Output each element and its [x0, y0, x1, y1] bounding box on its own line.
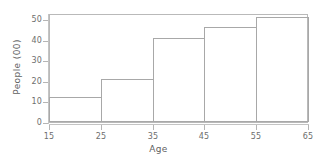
histogram-bar: [101, 79, 154, 122]
x-axis-tick-label: 45: [192, 132, 216, 141]
x-axis-tick-label: 15: [37, 132, 61, 141]
x-axis-title: Age: [0, 144, 317, 154]
y-axis-tick-label: 30: [16, 57, 42, 65]
x-axis-tick-label: 65: [296, 132, 317, 141]
y-axis-tick: [43, 123, 48, 124]
y-axis-tick-label: 20: [16, 78, 42, 86]
y-axis-tick-label: 10: [16, 98, 42, 106]
x-axis-tick: [204, 125, 205, 130]
y-axis-tick: [43, 102, 48, 103]
x-axis-tick: [308, 125, 309, 130]
histogram-bar: [153, 38, 206, 122]
histogram-bar: [49, 97, 102, 122]
x-axis-tick-label: 25: [89, 132, 113, 141]
y-axis-tick: [43, 20, 48, 21]
x-axis-tick: [256, 125, 257, 130]
y-axis-tick: [43, 41, 48, 42]
x-axis-tick: [153, 125, 154, 130]
x-axis-tick-label: 35: [141, 132, 165, 141]
x-axis-line: [49, 124, 309, 125]
y-axis-tick: [43, 61, 48, 62]
y-axis-tick-label: 50: [16, 16, 42, 24]
y-axis-tick-label: 0: [16, 119, 42, 127]
histogram-bar: [204, 27, 257, 122]
x-axis-tick: [101, 125, 102, 130]
y-axis-tick-label: 40: [16, 37, 42, 45]
x-axis-tick-label: 55: [244, 132, 268, 141]
y-axis-tick: [43, 82, 48, 83]
x-axis-tick: [49, 125, 50, 130]
histogram-figure: People (00) 01020304050 Age 152535455565: [0, 0, 317, 161]
plot-area: [49, 14, 308, 123]
histogram-bar: [256, 17, 309, 122]
